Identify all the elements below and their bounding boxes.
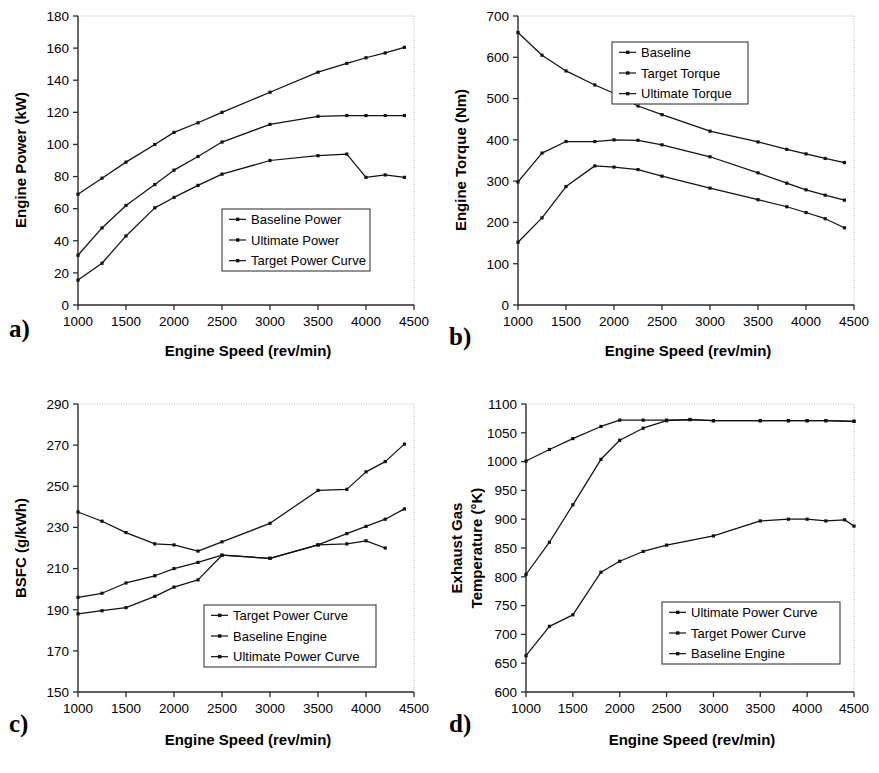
y-tick-label: 60 <box>54 201 69 216</box>
data-point <box>785 182 788 185</box>
data-point <box>806 518 809 521</box>
data-point <box>124 581 127 584</box>
data-point <box>665 544 668 547</box>
data-point <box>593 140 596 143</box>
y-tick-label: 500 <box>486 91 509 106</box>
data-point <box>403 507 406 510</box>
data-point <box>345 488 348 491</box>
x-tick-label: 2000 <box>605 701 635 716</box>
data-point <box>268 123 271 126</box>
series-line <box>78 541 385 614</box>
x-tick-label: 2500 <box>652 701 682 716</box>
data-point <box>220 540 223 543</box>
data-point <box>124 161 127 164</box>
data-point <box>345 114 348 117</box>
x-tick-label: 1500 <box>111 701 141 716</box>
x-tick-label: 4500 <box>399 314 429 329</box>
x-tick-label: 4000 <box>792 701 822 716</box>
data-point <box>316 543 319 546</box>
chart-panel-a: 0204060801001201401601801000150020002500… <box>0 0 440 380</box>
data-point <box>124 606 127 609</box>
data-point <box>403 46 406 49</box>
legend-marker-point <box>626 71 629 74</box>
legend-marker-point <box>676 611 679 614</box>
x-tick-label: 2500 <box>207 314 237 329</box>
data-point <box>612 138 615 141</box>
series-line <box>78 47 404 194</box>
y-axis-title: Engine Torque (Nm) <box>452 89 469 231</box>
data-point <box>268 522 271 525</box>
x-tick-label: 1500 <box>111 314 141 329</box>
x-tick-label: 3500 <box>303 701 333 716</box>
y-tick-label: 600 <box>486 50 509 65</box>
data-point <box>787 518 790 521</box>
y-tick-label: 170 <box>46 644 69 659</box>
y-tick-label: 250 <box>46 479 69 494</box>
data-point <box>124 204 127 207</box>
y-tick-label: 160 <box>46 41 69 56</box>
data-point <box>618 419 621 422</box>
legend-label: Ultimate Torque <box>641 86 732 101</box>
y-tick-label: 750 <box>494 598 517 613</box>
legend-marker-point <box>676 652 679 655</box>
data-point <box>516 241 519 244</box>
panel-label-a: a) <box>9 315 30 343</box>
data-point <box>403 176 406 179</box>
data-point <box>824 217 827 220</box>
data-point <box>76 510 79 513</box>
data-point <box>268 159 271 162</box>
data-point <box>712 534 715 537</box>
x-tick-label: 2000 <box>599 314 629 329</box>
data-point <box>785 205 788 208</box>
data-point <box>100 177 103 180</box>
data-point <box>548 625 551 628</box>
data-point <box>852 525 855 528</box>
legend-label: Target Power Curve <box>233 608 348 623</box>
data-point <box>76 612 79 615</box>
y-axis-title: Temperature (°K) <box>468 488 485 609</box>
x-tick-label: 3500 <box>303 314 333 329</box>
data-point <box>268 557 271 560</box>
y-axis-title: Engine Power (kW) <box>12 92 29 228</box>
legend-marker-point <box>626 51 629 54</box>
data-point <box>172 543 175 546</box>
data-point <box>524 573 527 576</box>
y-tick-label: 600 <box>494 685 517 700</box>
x-tick-label: 4500 <box>839 701 869 716</box>
data-point <box>824 419 827 422</box>
series-line <box>518 140 844 200</box>
x-tick-label: 4500 <box>839 314 869 329</box>
data-point <box>599 571 602 574</box>
data-point <box>660 175 663 178</box>
legend-label: Target Power Curve <box>251 253 366 268</box>
y-tick-label: 650 <box>494 656 517 671</box>
data-point <box>759 419 762 422</box>
data-point <box>548 448 551 451</box>
data-point <box>852 420 855 423</box>
data-point <box>196 121 199 124</box>
x-tick-label: 2000 <box>159 701 189 716</box>
x-tick-label: 3000 <box>255 314 285 329</box>
data-point <box>571 437 574 440</box>
data-point <box>172 196 175 199</box>
data-point <box>824 519 827 522</box>
data-point <box>636 104 639 107</box>
y-tick-label: 40 <box>54 234 69 249</box>
data-point <box>804 211 807 214</box>
data-point <box>345 152 348 155</box>
data-point <box>100 226 103 229</box>
data-point <box>196 184 199 187</box>
data-point <box>824 194 827 197</box>
y-tick-label: 950 <box>494 483 517 498</box>
data-point <box>618 560 621 563</box>
legend-marker-point <box>218 634 221 637</box>
data-point <box>172 567 175 570</box>
data-point <box>564 185 567 188</box>
data-point <box>364 56 367 59</box>
data-point <box>540 216 543 219</box>
data-point <box>124 234 127 237</box>
data-point <box>756 171 759 174</box>
data-point <box>593 164 596 167</box>
data-point <box>759 519 762 522</box>
data-point <box>384 51 387 54</box>
